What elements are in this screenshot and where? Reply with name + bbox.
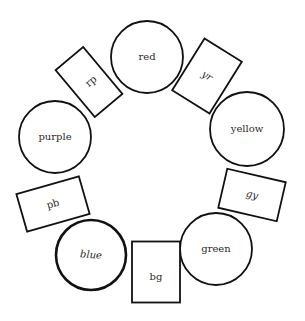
rect-gy: gy [218,169,285,221]
circle-red: red [111,21,183,93]
circle-yellow-label: yellow [230,123,264,134]
circle-red-label: red [138,51,156,62]
circle-green: green [180,213,252,285]
circle-purple-label: purple [38,131,71,142]
circle-purple: purple [19,101,91,173]
circle-blue: blue [56,220,126,290]
rect-bg: bg [132,242,180,303]
circle-yellow: yellow [210,92,284,166]
color-wheel-diagram: red yellow green blue purple yr gy bg pb… [0,0,305,321]
rect-bg-label: bg [150,271,163,282]
circle-green-label: green [201,243,231,254]
circle-blue-label: blue [80,248,103,261]
